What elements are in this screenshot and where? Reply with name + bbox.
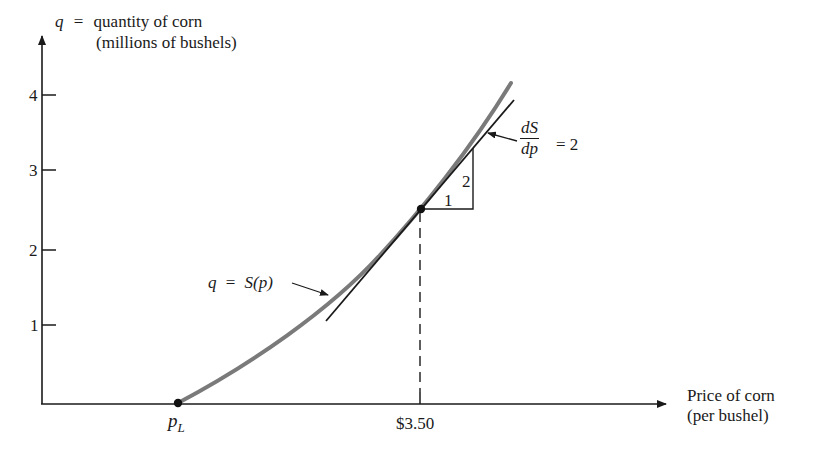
supply-curve-figure: q = quantity of corn (millions of bushel…: [0, 0, 820, 452]
derivative-numerator: dS: [520, 119, 539, 139]
derivative-fraction: dS dp: [520, 119, 539, 158]
y-ticks: [42, 95, 56, 325]
triangle-rise-label: 2: [462, 172, 471, 191]
curve-label-q: q: [208, 273, 217, 292]
curve-label-func: S(p): [245, 273, 273, 292]
curve-label-leader: [292, 283, 328, 295]
y-axis-label-line1: quantity of corn: [94, 12, 203, 31]
plot-canvas: [0, 0, 820, 452]
point-p-L: [174, 399, 182, 407]
x-axis-label-line1: Price of corn: [687, 386, 775, 405]
derivative-value: = 2: [556, 135, 578, 154]
y-axis-var: q: [55, 12, 64, 31]
x-axis-label-line2: (per bushel): [687, 406, 769, 425]
y-tick-label-4: 4: [29, 86, 38, 105]
p-L-main: p: [168, 410, 178, 431]
curve-label: q = S(p): [208, 273, 273, 292]
y-tick-label-3: 3: [29, 161, 38, 180]
tangency-point: [417, 205, 425, 213]
curve-label-eq: =: [226, 273, 236, 292]
y-axis-label: q = quantity of corn: [55, 12, 202, 31]
x-tick-label-p-L: pL: [168, 411, 185, 437]
supply-curve: [178, 83, 511, 403]
p-L-sub: L: [178, 420, 185, 435]
triangle-run-label: 1: [444, 191, 453, 210]
y-axis-eq: =: [74, 12, 84, 31]
y-tick-label-2: 2: [29, 241, 38, 260]
x-tick-label-price: $3.50: [396, 414, 434, 433]
y-axis-label-line2: (millions of bushels): [96, 33, 237, 52]
y-tick-label-1: 1: [30, 316, 39, 335]
derivative-denominator: dp: [520, 139, 539, 158]
deriv-label-leader: [488, 133, 517, 141]
